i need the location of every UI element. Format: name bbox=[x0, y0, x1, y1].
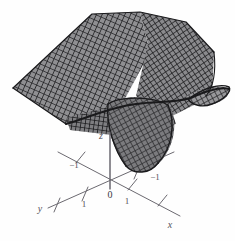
surface-plot-figure: x y z 0 1 −1 1 −1 bbox=[0, 0, 235, 241]
origin-label: 0 bbox=[108, 189, 113, 200]
surface-plot-canvas: x y z 0 1 −1 1 −1 bbox=[0, 0, 235, 241]
z-axis-label: z bbox=[98, 130, 103, 141]
x-tick-outer bbox=[158, 195, 167, 206]
x-tick-pos1 bbox=[128, 179, 137, 190]
x-axis-label: x bbox=[167, 219, 173, 230]
y-tick-label-neg1: −1 bbox=[69, 160, 79, 170]
y-axis-label: y bbox=[37, 203, 43, 214]
x-tick-label-pos1: 1 bbox=[125, 196, 130, 206]
x-tick-label-neg1: −1 bbox=[150, 172, 160, 182]
y-tick-label-pos1: 1 bbox=[82, 199, 87, 209]
